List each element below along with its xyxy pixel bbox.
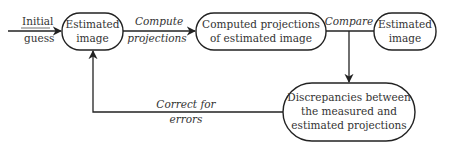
- edge-label-correct-for: Correct for: [156, 98, 216, 110]
- node-estimated-image-start: Estimated image: [62, 13, 123, 50]
- edge-compare: Compare: [325, 15, 374, 82]
- node-label-line1: Estimated: [378, 18, 432, 30]
- edge-label-compare: Compare: [325, 15, 374, 27]
- edge-compute-projections: Compute projections: [123, 15, 195, 44]
- node-label-line1: Discrepancies between: [287, 91, 411, 103]
- edge-label-projections: projections: [127, 32, 187, 44]
- node-label-line2: image: [76, 32, 109, 44]
- node-label-line3: estimated projections: [291, 119, 406, 131]
- node-label-line2: image: [389, 32, 422, 44]
- node-computed-projections: Computed projections of estimated image: [196, 13, 326, 50]
- node-label-line1: Computed projections: [202, 18, 320, 30]
- edge-initial-guess: Initial guess: [8, 15, 61, 44]
- node-discrepancies: Discrepancies between the measured and e…: [283, 83, 415, 141]
- node-label-line1: Estimated: [65, 18, 119, 30]
- edge-correct-for-errors: Correct for errors: [93, 51, 283, 125]
- edge-label-compute: Compute: [135, 15, 183, 27]
- node-estimated-image-end: Estimated image: [374, 13, 436, 50]
- node-label-line2: the measured and: [301, 105, 397, 117]
- edge-label-guess: guess: [24, 32, 54, 44]
- flowchart-diagram: Initial guess Estimated image Compute pr…: [0, 0, 456, 149]
- edge-label-initial: Initial: [22, 15, 54, 27]
- edge-label-errors: errors: [170, 113, 204, 125]
- node-label-line2: of estimated image: [210, 32, 312, 44]
